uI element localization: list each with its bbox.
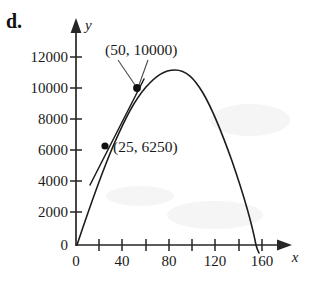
- y-tick-labels: 12000 10000 8000 6000 4000 2000 0: [31, 49, 69, 253]
- x-tick-label-160: 160: [251, 253, 274, 269]
- x-tick-label-40: 40: [115, 253, 130, 269]
- scan-artifact: [210, 104, 290, 136]
- marked-point-50-10000: [133, 84, 141, 92]
- annotation-label-50-10000: (50, 10000): [105, 41, 177, 59]
- x-tick-label-0: 0: [72, 253, 80, 269]
- y-tick-label-8000: 8000: [38, 111, 68, 127]
- x-tick-labels: 0 40 80 120 160: [72, 253, 273, 269]
- figure-container: d. y 12000 10000 8000 6000 4000 20: [0, 0, 317, 286]
- scan-artifact: [106, 186, 174, 206]
- x-tick-label-80: 80: [162, 253, 177, 269]
- marked-point-25-6250: [101, 142, 108, 149]
- x-axis-arrowhead: [277, 240, 292, 251]
- leader-line-left: [118, 60, 135, 85]
- y-tick-label-4000: 4000: [38, 173, 68, 189]
- parabola-chart: y 12000 10000 8000 6000 4000 2000 0 x: [0, 0, 317, 286]
- y-tick-label-6000: 6000: [38, 142, 68, 158]
- y-tick-label-0: 0: [61, 237, 69, 253]
- x-axis-label: x: [291, 249, 299, 265]
- y-tick-label-2000: 2000: [38, 204, 68, 220]
- secant-line: [90, 79, 144, 185]
- y-axis-arrowhead: [71, 18, 82, 33]
- annotation-label-25-6250: (25, 6250): [113, 138, 178, 156]
- part-label: d.: [6, 10, 22, 33]
- annotation-50-10000: (50, 10000): [105, 41, 177, 85]
- x-tick-label-120: 120: [204, 253, 227, 269]
- y-tick-label-10000: 10000: [31, 80, 69, 96]
- y-axis-label: y: [83, 17, 92, 33]
- y-tick-label-12000: 12000: [31, 49, 69, 65]
